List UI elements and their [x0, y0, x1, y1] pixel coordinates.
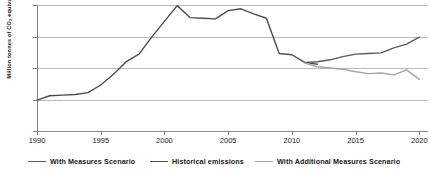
legend-swatch: [255, 161, 273, 162]
x-axis-tick-label: 2005: [211, 137, 245, 145]
series-line: [305, 63, 420, 79]
series-line: [37, 6, 317, 101]
x-axis-tick-label: 2020: [402, 137, 431, 145]
legend-label: With Measures Scenario: [50, 157, 135, 166]
series-line: [305, 37, 420, 62]
x-axis-tick-mark: [101, 131, 102, 135]
legend-item[interactable]: With Additional Measures Scenario: [255, 155, 400, 167]
x-axis-tick-mark: [356, 131, 357, 135]
x-axis-tick-label: 1990: [20, 137, 54, 145]
x-axis-tick-mark: [164, 131, 165, 135]
legend-item[interactable]: With Measures Scenario: [28, 155, 135, 167]
y-axis-tick-mark: [33, 5, 37, 6]
legend-label: With Additional Measures Scenario: [277, 157, 400, 166]
legend-swatch: [150, 161, 168, 162]
y-axis-tick-mark: [33, 100, 37, 101]
y-axis-tick-mark: [33, 37, 37, 38]
line-chart: Million tonnes of CO2 equivalent With Me…: [0, 0, 431, 170]
x-axis-tick-label: 1995: [84, 137, 118, 145]
series-layer: [0, 0, 431, 170]
chart-legend: With Measures ScenarioHistorical emissio…: [0, 155, 431, 167]
x-axis-tick-label: 2000: [147, 137, 181, 145]
x-axis-tick-mark: [292, 131, 293, 135]
x-axis-tick-label: 2015: [339, 137, 373, 145]
x-axis-tick-mark: [228, 131, 229, 135]
x-axis-tick-mark: [419, 131, 420, 135]
x-axis-tick-label: 2010: [275, 137, 309, 145]
legend-swatch: [28, 161, 46, 162]
legend-item[interactable]: Historical emissions: [150, 155, 244, 167]
x-axis-tick-mark: [37, 131, 38, 135]
legend-label: Historical emissions: [172, 157, 244, 166]
y-axis-tick-mark: [33, 68, 37, 69]
